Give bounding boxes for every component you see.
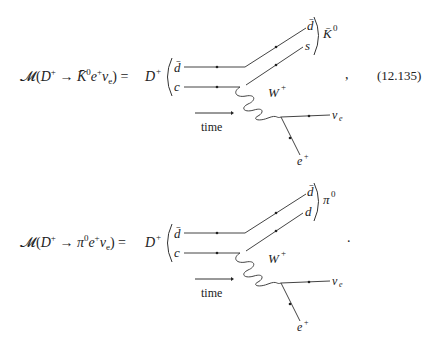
feynman-diagram: D + d̄ c d̄ d π 0 W + ν e e + time bbox=[0, 166, 442, 362]
initial-state-charge: + bbox=[156, 66, 161, 76]
fermion-arrow-dot bbox=[289, 137, 292, 140]
positron-line bbox=[281, 283, 300, 321]
quark-dbar-in-label: d̄ bbox=[174, 60, 181, 75]
fermion-arrow-dot bbox=[275, 46, 278, 49]
quark-dbar-in-label: d̄ bbox=[174, 226, 181, 241]
spectator-quark-line bbox=[184, 28, 306, 67]
neutrino-label: ν bbox=[332, 108, 338, 122]
trailing-comma: , bbox=[345, 67, 349, 83]
w-boson-charge: + bbox=[281, 248, 286, 258]
positron-label: e bbox=[297, 320, 303, 334]
w-boson-label: W bbox=[268, 251, 280, 266]
spectator-quark-line bbox=[184, 194, 306, 233]
w-boson-charge: + bbox=[281, 82, 286, 92]
quark-c-in-label: c bbox=[174, 79, 180, 94]
fermion-arrow-dot bbox=[289, 303, 292, 306]
positron-charge: + bbox=[304, 152, 309, 161]
positron-line bbox=[281, 117, 300, 155]
initial-state-label: D bbox=[144, 69, 155, 84]
equation-number: (12.135) bbox=[377, 68, 421, 84]
fermion-arrow-dot bbox=[216, 252, 219, 255]
fermion-arrow-dot bbox=[275, 230, 278, 233]
trailing-period: . bbox=[347, 230, 351, 246]
final-meson-charge: 0 bbox=[333, 23, 338, 33]
open-bracket bbox=[168, 58, 173, 96]
w-boson-label: W bbox=[268, 85, 280, 100]
quark-dbar-out-label: d̄ bbox=[307, 18, 314, 33]
final-meson-charge: 0 bbox=[331, 189, 336, 199]
time-label: time bbox=[201, 286, 222, 300]
neutrino-flavor: e bbox=[339, 114, 343, 123]
quark-c-in-label: c bbox=[174, 245, 180, 260]
equation-pi0: 𝓜(D+ → π0e+νe) = D + d̄ c d̄ d π 0 W + ν… bbox=[0, 166, 442, 347]
fermion-arrow-dot bbox=[216, 66, 219, 69]
positron-charge: + bbox=[304, 318, 309, 327]
time-arrowhead-icon bbox=[231, 111, 234, 115]
quark-s-out-label: s bbox=[305, 38, 310, 53]
final-meson-label: π bbox=[323, 192, 330, 207]
fermion-arrow-dot bbox=[308, 115, 311, 118]
open-bracket bbox=[168, 224, 173, 262]
neutrino-line bbox=[281, 115, 330, 117]
quark-dbar-out-label: d̄ bbox=[307, 184, 314, 199]
fermion-arrow-dot bbox=[275, 64, 278, 67]
fermion-arrow-dot bbox=[216, 86, 219, 89]
initial-state-label: D bbox=[144, 235, 155, 250]
time-label: time bbox=[201, 120, 222, 134]
feynman-diagram: D + d̄ c d̄ s K̄ 0 W + ν e e + bbox=[0, 0, 442, 181]
d-quark-line bbox=[246, 213, 303, 251]
time-arrowhead-icon bbox=[231, 277, 234, 281]
fermion-arrow-dot bbox=[216, 232, 219, 235]
meson-bracket bbox=[314, 183, 319, 221]
meson-bracket bbox=[314, 17, 319, 55]
s-quark-line bbox=[246, 47, 303, 85]
neutrino-flavor: e bbox=[339, 280, 343, 289]
final-meson-label: K̄ bbox=[322, 26, 333, 41]
neutrino-label: ν bbox=[332, 274, 338, 288]
equation-12-135: 𝓜(D+ → K̄0e+νe) = D + d̄ c d̄ s K̄ 0 W + bbox=[0, 0, 442, 181]
fermion-arrow-dot bbox=[275, 212, 278, 215]
fermion-arrow-dot bbox=[308, 281, 311, 284]
neutrino-line bbox=[281, 281, 330, 283]
initial-state-charge: + bbox=[156, 232, 161, 242]
quark-d-out-label: d bbox=[305, 204, 312, 219]
